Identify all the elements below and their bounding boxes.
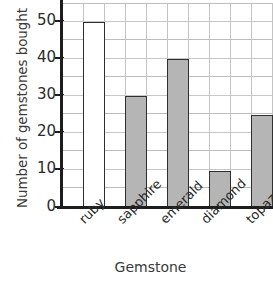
y-tick-label: 0 (22, 199, 56, 214)
y-tick-label: 40 (22, 50, 56, 65)
y-axis-tick-labels: 50 40 30 20 10 0 (22, 0, 56, 281)
y-tick-label: 30 (22, 87, 56, 102)
bar-ruby (83, 22, 105, 208)
x-axis-title-text: Gemstone (115, 259, 187, 275)
bar-emerald (167, 59, 189, 208)
y-axis-line (60, 0, 63, 208)
bar-chart: Number of gemstones bought 50 40 30 20 1… (0, 0, 273, 281)
y-tick-label: 50 (22, 13, 56, 28)
plot-area (62, 3, 273, 208)
y-tick-label: 10 (22, 161, 56, 176)
x-axis-title: Gemstone (0, 259, 273, 275)
y-tick-label: 20 (22, 124, 56, 139)
